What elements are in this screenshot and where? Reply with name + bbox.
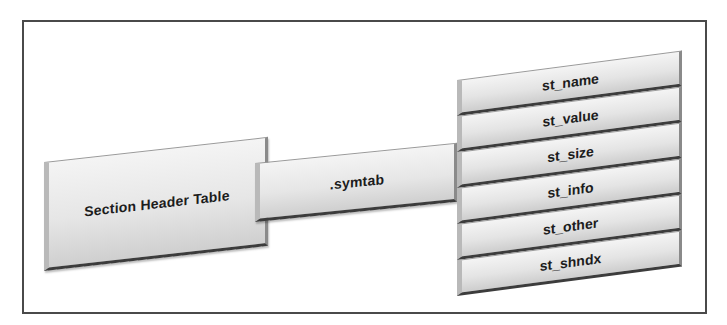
symtab-label: .symtab	[330, 171, 384, 192]
field-label: st_size	[547, 143, 594, 165]
section-header-table-label: Section Header Table	[84, 187, 229, 219]
symbol-field-stack: st_name st_value st_size st_info st_othe…	[457, 50, 682, 296]
field-label: st_info	[548, 179, 594, 201]
field-label: st_value	[542, 106, 598, 129]
field-label: st_name	[542, 70, 599, 93]
field-label: st_other	[543, 214, 598, 237]
field-label: st_shndx	[540, 250, 601, 274]
